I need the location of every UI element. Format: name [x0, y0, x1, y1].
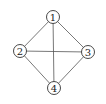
node-label: 1: [50, 12, 56, 23]
edge-1-3: [53, 17, 88, 52]
node-2: 2: [14, 45, 27, 58]
node-4: 4: [48, 82, 61, 95]
edge-1-4: [53, 17, 54, 88]
node-label: 4: [51, 83, 57, 94]
nodes-group: 1234: [14, 11, 95, 95]
node-3: 3: [82, 46, 95, 59]
graph-svg: 1234: [0, 0, 106, 104]
node-1: 1: [47, 11, 60, 24]
edge-2-4: [20, 51, 54, 88]
edge-1-2: [20, 17, 53, 51]
node-label: 3: [85, 47, 91, 58]
edges-group: [20, 17, 88, 88]
edge-2-3: [20, 51, 88, 52]
graph-diagram: 1234: [0, 0, 106, 104]
node-label: 2: [17, 46, 23, 57]
edge-3-4: [54, 52, 88, 88]
